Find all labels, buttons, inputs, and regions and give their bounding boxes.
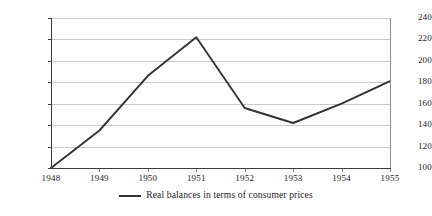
y-axis-tick-label: 200 bbox=[388, 56, 432, 65]
y-axis-tick-mark bbox=[48, 104, 51, 105]
y-axis-tick-label: 100 bbox=[388, 163, 432, 172]
y-axis-tick-mark bbox=[48, 82, 51, 83]
plot-area bbox=[51, 18, 390, 168]
y-axis-tick-mark bbox=[48, 18, 51, 19]
y-axis-tick-label: 160 bbox=[388, 99, 432, 108]
legend-line-swatch bbox=[119, 195, 141, 197]
x-axis-tick-mark bbox=[342, 169, 343, 172]
x-axis-tick-mark bbox=[99, 169, 100, 172]
y-axis-tick-mark bbox=[48, 168, 51, 169]
y-axis-tick-label: 180 bbox=[388, 77, 432, 86]
y-axis-tick-mark bbox=[48, 61, 51, 62]
chart-legend: Real balances in terms of consumer price… bbox=[0, 190, 432, 201]
x-axis-tick-mark bbox=[390, 169, 391, 172]
y-axis-tick-mark bbox=[48, 147, 51, 148]
y-axis-tick-mark bbox=[48, 125, 51, 126]
y-axis-tick-mark bbox=[48, 39, 51, 40]
x-axis-tick-mark bbox=[148, 169, 149, 172]
x-axis-tick-label: 1951 bbox=[176, 173, 216, 183]
y-axis-tick-label: 140 bbox=[388, 120, 432, 129]
y-axis-tick-label: 120 bbox=[388, 142, 432, 151]
x-axis-tick-label: 1949 bbox=[79, 173, 119, 183]
x-axis-tick-label: 1950 bbox=[128, 173, 168, 183]
x-axis-tick-label: 1952 bbox=[225, 173, 265, 183]
x-axis-tick-mark bbox=[245, 169, 246, 172]
x-axis-tick-label: 1954 bbox=[322, 173, 362, 183]
line-chart: 100120140160180200220240 194819491950195… bbox=[0, 0, 432, 216]
y-axis-tick-label: 220 bbox=[388, 34, 432, 43]
legend-item-label: Real balances in terms of consumer price… bbox=[146, 190, 313, 201]
series-real-balances bbox=[51, 18, 390, 168]
x-axis-tick-mark bbox=[196, 169, 197, 172]
x-axis-tick-label: 1953 bbox=[273, 173, 313, 183]
x-axis-line bbox=[51, 168, 391, 169]
y-axis-tick-label: 240 bbox=[388, 13, 432, 22]
x-axis-tick-label: 1955 bbox=[370, 173, 410, 183]
x-axis-tick-label: 1948 bbox=[31, 173, 71, 183]
series-polyline bbox=[51, 37, 390, 168]
x-axis-tick-mark bbox=[293, 169, 294, 172]
y-axis-line bbox=[51, 18, 52, 169]
